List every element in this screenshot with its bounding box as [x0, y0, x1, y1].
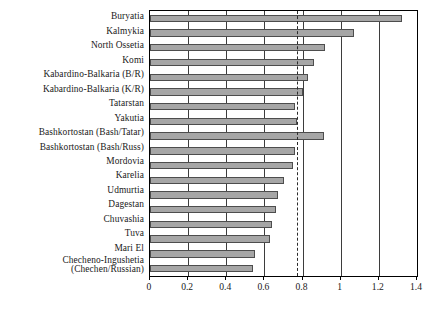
bar[interactable] — [150, 191, 278, 198]
category-label: Bashkortostan (Bash/Tatar) — [0, 126, 147, 140]
x-tick — [187, 276, 188, 280]
x-tick — [416, 276, 417, 280]
x-tick-label: 1.2 — [372, 281, 384, 292]
bar-row — [150, 173, 417, 188]
bar-row — [150, 202, 417, 217]
x-tick — [302, 276, 303, 280]
bar-series — [150, 11, 417, 276]
x-tick — [263, 276, 264, 280]
category-label: Kabardino-Balkaria (K/R) — [0, 82, 147, 96]
bar-row — [150, 232, 417, 247]
bar[interactable] — [150, 88, 303, 95]
category-label: Kabardino-Balkaria (B/R) — [0, 68, 147, 82]
x-tick-label: 0.8 — [296, 281, 308, 292]
bar[interactable] — [150, 15, 402, 22]
x-tick-label: 0.4 — [219, 281, 231, 292]
category-label: Bashkortostan (Bash/Russ) — [0, 140, 147, 154]
category-label: Chuvashia — [0, 212, 147, 226]
bar[interactable] — [150, 147, 295, 154]
bar[interactable] — [150, 206, 276, 213]
bar[interactable] — [150, 103, 295, 110]
x-axis: 00.20.40.60.811.21.4 — [149, 276, 416, 296]
category-label: Tuva — [0, 227, 147, 241]
category-label: Buryatia — [0, 10, 147, 24]
bar[interactable] — [150, 221, 272, 228]
category-label: Dagestan — [0, 198, 147, 212]
bar-row — [150, 158, 417, 173]
x-tick-label: 0.2 — [181, 281, 193, 292]
bar-row — [150, 261, 417, 276]
bar[interactable] — [150, 74, 308, 81]
bar-row — [150, 26, 417, 41]
bar-row — [150, 129, 417, 144]
category-label-line: (Chechen/Russian) — [71, 265, 144, 275]
x-tick — [225, 276, 226, 280]
bar[interactable] — [150, 59, 314, 66]
x-tick-label: 1.4 — [410, 281, 422, 292]
bar-row — [150, 85, 417, 100]
bar[interactable] — [150, 177, 284, 184]
bar[interactable] — [150, 44, 325, 51]
bar-row — [150, 143, 417, 158]
bar-row — [150, 217, 417, 232]
category-label: Yakutia — [0, 111, 147, 125]
bar-chart: BuryatiaKalmykiaNorth OssetiaKomiKabardi… — [0, 0, 432, 310]
category-label: Karelia — [0, 169, 147, 183]
category-label: Komi — [0, 53, 147, 67]
x-tick-label: 0.6 — [257, 281, 269, 292]
x-tick — [340, 276, 341, 280]
category-label: Kalmykia — [0, 24, 147, 38]
category-axis-labels: BuryatiaKalmykiaNorth OssetiaKomiKabardi… — [0, 10, 147, 275]
bar-row — [150, 11, 417, 26]
category-label: Mordovia — [0, 155, 147, 169]
category-label: Udmurtia — [0, 183, 147, 197]
x-tick-label: 1 — [337, 281, 342, 292]
bar-row — [150, 247, 417, 262]
bar-row — [150, 188, 417, 203]
bar[interactable] — [150, 250, 255, 257]
bar[interactable] — [150, 162, 293, 169]
category-label: Tatarstan — [0, 97, 147, 111]
category-label: Mari El — [0, 241, 147, 255]
bar[interactable] — [150, 235, 270, 242]
bar-row — [150, 55, 417, 70]
bar-row — [150, 99, 417, 114]
plot-area — [149, 10, 418, 277]
x-tick — [149, 276, 150, 280]
category-label: North Ossetia — [0, 39, 147, 53]
bar[interactable] — [150, 29, 354, 36]
bar[interactable] — [150, 265, 253, 272]
category-label: Checheno-Ingushetia(Chechen/Russian) — [0, 256, 147, 275]
x-tick — [378, 276, 379, 280]
reference-line — [297, 11, 298, 276]
bar[interactable] — [150, 118, 297, 125]
bar-row — [150, 114, 417, 129]
x-tick-label: 0 — [147, 281, 152, 292]
bar-row — [150, 40, 417, 55]
bar-row — [150, 70, 417, 85]
